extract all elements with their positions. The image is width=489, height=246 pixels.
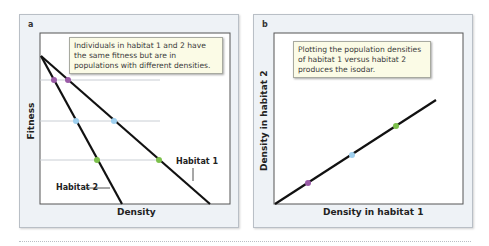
habitat-1-purple-point (65, 77, 71, 83)
isodar-green-point (393, 123, 399, 129)
isodar-purple-point (305, 180, 311, 186)
callout-a: Individuals in habitat 1 and 2 have the … (69, 37, 223, 74)
x-axis-label-a: Density (117, 207, 156, 217)
dotted-divider (19, 241, 471, 242)
callout-b: Plotting the population densities of hab… (293, 41, 431, 78)
habitat-2-blue-point (73, 118, 79, 124)
isodar-blue-point (349, 152, 355, 158)
habitat-2-label: Habitat 2 (56, 183, 98, 192)
habitat-2-purple-point (51, 77, 57, 83)
habitat-2-green-point (94, 157, 100, 163)
y-axis-label-b: Density in habitat 2 (259, 71, 269, 171)
x-axis-label-b: Density in habitat 1 (323, 207, 423, 217)
habitat-1-green-point (156, 157, 162, 163)
habitat-1-label: Habitat 1 (176, 157, 218, 166)
habitat-1-blue-point (111, 118, 117, 124)
panel-b-letter: b (262, 20, 268, 29)
y-axis-label-a: Fitness (26, 101, 36, 141)
